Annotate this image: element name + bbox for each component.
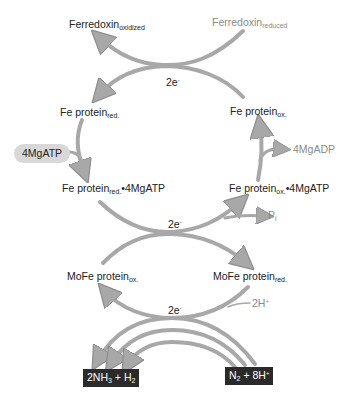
fe-protein-oxidized-label: Fe proteinox. [230,106,287,118]
label-base: 2e [166,76,178,88]
substrate-arrow-3 [128,342,235,367]
mofe-protein-reduced-label: MoFe proteinred. [213,271,287,283]
proton-input-arrow [228,303,250,307]
fe-protein-reduced-atp-label: Fe proteinred.•4MgATP [62,183,165,195]
label-superscript: - [180,305,182,311]
electron-label-2: 2e- [168,219,182,230]
label-suffix: •4MgATP [286,182,330,194]
ferredoxin-arrow [100,31,243,65]
label-base: 2NH [87,371,108,383]
fe-protein-oxidized-atp-label: Fe proteinox.•4MgATP [229,183,329,195]
label-base: N [229,369,237,381]
label-subscript: red. [107,112,119,119]
label-subscript: ox. [276,188,285,195]
atp-hydrolysis-arrow [258,126,262,180]
label-base: MoFe protein [67,270,129,282]
nitrogenase-electron-flow-diagram: Ferredoxinoxidized Ferredoxinreduced 2e-… [0,0,346,398]
label-superscript: + [265,298,269,304]
proton-input-label: 2H+ [252,298,269,309]
electron-label-1: 2e- [166,77,180,88]
fe-protein-reduced-label: Fe proteinred. [60,107,119,119]
label-subscript: oxidized [119,24,145,31]
label-subscript: ox. [129,276,138,283]
arrow-layer [0,0,346,398]
label-superscript: + [266,370,270,376]
label-base: 2e [168,304,180,316]
label-subscript: ox. [277,111,286,118]
label-subscript: red. [275,276,287,283]
label-base: P [268,209,275,221]
label-base: Ferredoxin [69,18,119,30]
label-suffix: •4MgATP [121,182,165,194]
mgatp-input-label: 4MgATP [14,144,70,163]
pi-output-arrow [225,215,265,218]
reactants-label: N2 + 8H+ [225,367,273,385]
label-superscript: - [180,219,182,225]
label-base: 2e [168,218,180,230]
mgadp-output-label: 4MgADP [293,144,335,155]
label-base: Fe protein [230,105,277,117]
label-base: 2H [252,297,265,309]
ferredoxin-oxidized-label: Ferredoxinoxidized [69,19,145,31]
label-subscript: reduced [262,22,287,29]
ferredoxin-reduced-label: Ferredoxinreduced [212,17,288,29]
label-base: Fe protein [229,182,276,194]
label-subscript: red. [109,188,121,195]
label-subscript: 2 [131,377,135,384]
atp-binding-arrow [78,120,84,172]
electron-label-3: 2e- [168,305,182,316]
label-base: Fe protein [62,182,109,194]
label-base: + 8H [241,369,266,381]
phosphate-output-label: Pi [268,210,277,222]
label-base: Fe protein [60,106,107,118]
label-superscript: - [178,77,180,83]
label-base: + H [112,371,132,383]
label-subscript: i [275,215,277,222]
mofe-protein-oxidized-label: MoFe proteinox. [67,271,138,283]
label-base: MoFe protein [213,270,275,282]
mofe-reduction-arrow [103,234,245,263]
label-base: Ferredoxin [212,16,262,28]
products-label: 2NH3 + H2 [83,369,139,387]
